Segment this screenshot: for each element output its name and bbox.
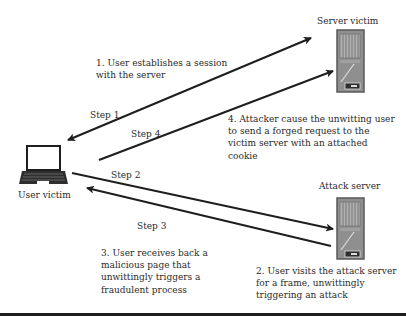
step-1-description: 1. User establishes a session with the s… <box>96 57 227 81</box>
step-2-description: 2. User visits the attack server for a f… <box>256 265 397 302</box>
server-icon <box>337 30 364 92</box>
step-3-label: Step 3 <box>137 220 166 232</box>
attack-server-label: Attack server <box>319 180 380 192</box>
step-2-arrow <box>72 173 333 229</box>
laptop-icon <box>19 146 68 184</box>
user-victim-label: User victim <box>18 189 71 201</box>
step-4-label: Step 4 <box>131 128 160 140</box>
step-2-label: Step 2 <box>111 169 140 181</box>
step-3-description: 3. User receives back a malicious page t… <box>101 247 208 296</box>
step-3-arrow <box>87 188 331 246</box>
bottom-rule <box>0 313 406 316</box>
server-victim-label: Server victim <box>317 15 378 27</box>
step-1-label: Step 1 <box>90 109 119 121</box>
server-icon <box>337 198 364 259</box>
step-4-description: 4. Attacker cause the unwitting user to … <box>228 113 395 162</box>
